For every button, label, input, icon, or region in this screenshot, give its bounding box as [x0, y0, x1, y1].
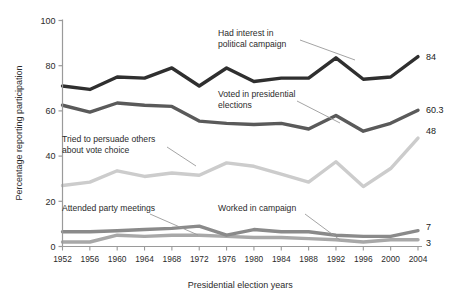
series-end-label: 3 — [426, 238, 431, 248]
chart-container: 0204060801001952195619601964196819721976… — [0, 0, 453, 303]
x-tick-label: 1968 — [163, 254, 182, 264]
y-tick-label: 60 — [45, 106, 55, 116]
y-tick-label: 0 — [50, 242, 55, 252]
x-axis-title: Presidential election years — [188, 280, 294, 290]
series-end-label: 7 — [426, 222, 431, 232]
series-end-label: 60.3 — [426, 105, 444, 115]
series-end-label: 84 — [426, 52, 436, 62]
y-tick-label: 100 — [40, 16, 55, 26]
x-tick-label: 1960 — [108, 254, 127, 264]
x-tick-label: 2000 — [381, 254, 400, 264]
annotation-text: Tried to persuade others — [62, 134, 155, 144]
y-tick-label: 40 — [45, 151, 55, 161]
annotation-text: Voted in presidential — [218, 89, 295, 99]
annotation-text: about vote choice — [62, 145, 130, 155]
x-tick-label: 2004 — [409, 254, 428, 264]
x-tick-label: 1964 — [135, 254, 154, 264]
annotation-text: political campaign — [218, 39, 287, 49]
line-chart: 0204060801001952195619601964196819721976… — [0, 0, 453, 303]
annotation-text: Had interest in — [218, 28, 274, 38]
y-tick-label: 80 — [45, 61, 55, 71]
annotation-text: elections — [218, 100, 252, 110]
x-tick-label: 1984 — [272, 254, 291, 264]
y-tick-label: 20 — [45, 197, 55, 207]
x-tick-label: 1956 — [81, 254, 100, 264]
x-tick-label: 1952 — [53, 254, 72, 264]
annotation-text: Worked in campaign — [218, 203, 296, 213]
x-tick-label: 1996 — [354, 254, 373, 264]
x-tick-label: 1980 — [245, 254, 264, 264]
x-tick-label: 1976 — [217, 254, 236, 264]
y-axis-title: Percentage reporting participation — [14, 65, 24, 200]
series-end-label: 48 — [426, 126, 436, 136]
x-tick-label: 1992 — [327, 254, 346, 264]
x-tick-label: 1972 — [190, 254, 209, 264]
annotation-text: Attended party meetings — [62, 203, 155, 213]
x-tick-label: 1988 — [299, 254, 318, 264]
